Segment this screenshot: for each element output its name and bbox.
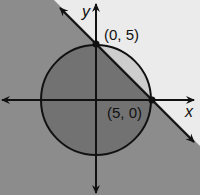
point-label-5-0: (5, 0) [107,104,142,121]
point-5-0 [149,97,156,104]
x-axis-label: x [184,103,194,120]
point-label-0-5: (0, 5) [104,26,139,43]
inequality-graph: y x (0, 5) (5, 0) [0,0,200,195]
point-0-5 [93,41,100,48]
y-axis-label: y [81,3,91,20]
graph-canvas: y x (0, 5) (5, 0) [0,0,200,195]
